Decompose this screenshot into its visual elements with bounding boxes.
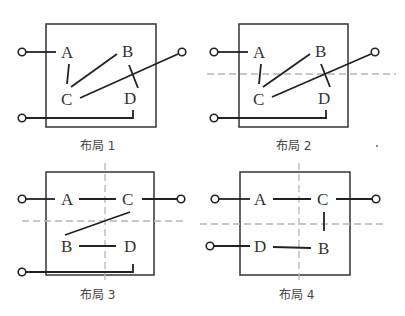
terminal-icon xyxy=(371,48,379,56)
layout-4-wire-d-b xyxy=(273,247,311,248)
layout-3-wire-b-c xyxy=(65,212,130,235)
terminal-icon xyxy=(210,114,218,122)
layout-2: A B C D 布局 2 xyxy=(207,24,396,153)
terminal-icon xyxy=(210,48,218,56)
terminal-icon xyxy=(372,195,380,203)
layout-1-wire-c-b xyxy=(71,54,117,87)
terminal-icon xyxy=(206,242,214,250)
node-label: A xyxy=(61,190,74,209)
terminal-icon xyxy=(18,48,26,56)
layout-1-wire-terminal-d xyxy=(26,110,133,118)
terminal-icon xyxy=(178,48,186,56)
node-label: C xyxy=(317,190,328,209)
node-label: C xyxy=(253,90,264,109)
layout-caption: 布局 1 xyxy=(80,139,115,153)
terminal-icon xyxy=(18,114,26,122)
node-label: B xyxy=(61,237,72,256)
node-label: A xyxy=(253,43,266,62)
layout-caption: 布局 3 xyxy=(80,288,115,302)
layout-1-box xyxy=(46,24,156,127)
layout-4: A C D B 布局 4 xyxy=(200,163,385,302)
stray-dot xyxy=(376,145,378,147)
node-label: A xyxy=(61,43,74,62)
terminal-icon xyxy=(177,195,185,203)
node-label: B xyxy=(122,42,133,61)
layout-3-wire-terminal-d xyxy=(26,264,133,272)
layout-1-wire-a-c xyxy=(67,64,69,84)
terminal-icon xyxy=(18,195,26,203)
node-label: A xyxy=(254,190,267,209)
terminal-icon xyxy=(18,268,26,276)
layout-2-wire-c-b xyxy=(263,54,310,87)
layout-2-wire-terminal-d xyxy=(218,110,326,118)
layout-2-box xyxy=(239,24,348,127)
layout-2-wire-a-c xyxy=(259,64,261,84)
layout-caption: 布局 4 xyxy=(279,288,314,302)
node-label: B xyxy=(318,239,329,258)
node-label: D xyxy=(318,89,330,108)
node-label: B xyxy=(315,42,326,61)
node-label: D xyxy=(254,237,266,256)
layout-1: A B C D 布局 1 xyxy=(18,24,186,153)
node-label: D xyxy=(124,89,136,108)
node-label: C xyxy=(122,190,133,209)
layout-3: A C B D 布局 3 xyxy=(18,163,185,302)
node-label: D xyxy=(124,237,136,256)
layout-1-wire-b-d xyxy=(129,65,138,88)
layout-caption: 布局 2 xyxy=(276,139,311,153)
node-label: C xyxy=(61,90,72,109)
terminal-icon xyxy=(211,195,219,203)
